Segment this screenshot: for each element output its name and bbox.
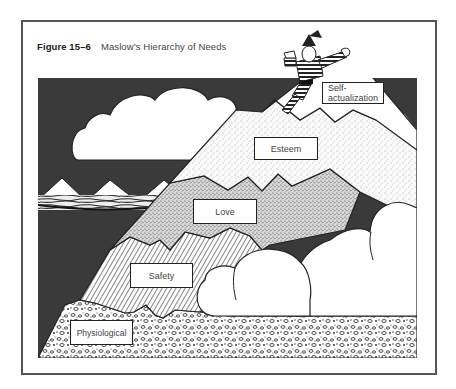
- maslow-mountain-illustration: [0, 0, 456, 389]
- label-self-actualization-line2: actualization: [328, 93, 378, 103]
- label-safety: Safety: [130, 263, 193, 288]
- label-esteem-text: Esteem: [271, 144, 302, 154]
- label-physiological-text: Physiological: [77, 328, 127, 338]
- label-safety-text: Safety: [149, 271, 175, 281]
- label-love: Love: [193, 199, 257, 224]
- label-physiological: Physiological: [70, 320, 133, 345]
- label-esteem: Esteem: [254, 137, 318, 160]
- label-self-actualization: Self- actualization: [322, 82, 384, 104]
- label-love-text: Love: [215, 207, 235, 217]
- label-self-actualization-line1: Self-: [328, 83, 347, 93]
